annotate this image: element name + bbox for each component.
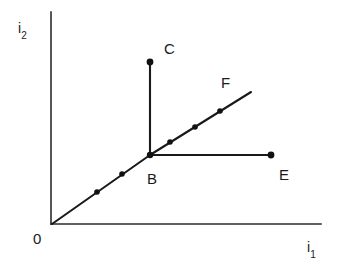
point-F-label: F xyxy=(221,75,230,90)
point-B-label: B xyxy=(147,171,157,186)
ray-origin-to-B xyxy=(52,155,150,224)
x-axis-label-subscript: 1 xyxy=(310,249,316,260)
y-axis-label: i2 xyxy=(18,21,27,39)
ray-B-to-F xyxy=(150,92,251,155)
point-C-label: C xyxy=(164,41,175,56)
point-B-dot xyxy=(147,152,153,158)
origin-label: 0 xyxy=(33,231,41,246)
point-E-label: E xyxy=(279,167,289,182)
marker-dot xyxy=(167,139,173,145)
x-axis-label: i1 xyxy=(307,240,316,258)
point-E-dot xyxy=(268,152,275,159)
point-C-dot xyxy=(147,59,154,66)
marker-dot xyxy=(192,124,198,130)
marker-dot xyxy=(119,171,125,177)
marker-dot xyxy=(217,108,223,114)
marker-dot xyxy=(94,189,100,195)
y-axis-label-subscript: 2 xyxy=(21,30,27,41)
isoquant-diagram: i2 i1 0 C F B E xyxy=(0,0,337,269)
